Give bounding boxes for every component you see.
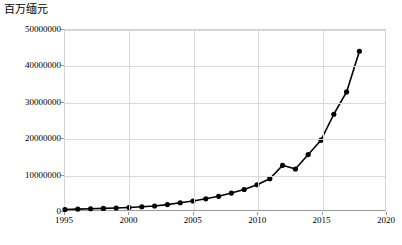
x-axis-tick-label: 2000: [106, 215, 150, 225]
x-axis-tick-label: 1995: [42, 215, 86, 225]
x-axis-tick-label: 2015: [300, 215, 344, 225]
x-axis-tick-mark: [257, 212, 258, 215]
x-axis-tick-mark: [64, 212, 65, 215]
x-axis-tick-label: 2005: [171, 215, 215, 225]
x-axis-tick-mark: [322, 212, 323, 215]
x-axis-tick-mark: [386, 212, 387, 215]
chart-container: 百万缅元 01000000020000000300000004000000050…: [0, 0, 402, 245]
x-axis-tick-mark: [193, 212, 194, 215]
x-axis-tick-label: 2010: [235, 215, 279, 225]
x-axis-tick-labels: 199520002005201020152020: [0, 0, 402, 245]
x-axis-tick-label: 2020: [364, 215, 402, 225]
x-axis-tick-mark: [128, 212, 129, 215]
